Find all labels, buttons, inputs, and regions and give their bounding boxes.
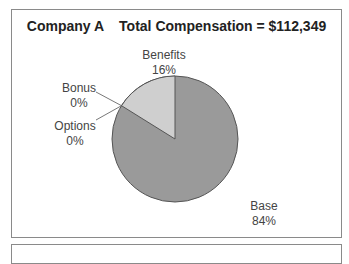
label-base: Base 84% [242,199,286,229]
label-benefits-name: Benefits [134,48,194,63]
label-bonus-pct: 0% [54,96,104,111]
label-bonus: Bonus 0% [54,81,104,111]
label-benefits: Benefits 16% [134,48,194,78]
label-benefits-pct: 16% [134,63,194,78]
label-options: Options 0% [48,119,102,149]
label-bonus-name: Bonus [54,81,104,96]
next-chart-panel [11,244,342,264]
label-base-pct: 84% [242,214,286,229]
label-base-name: Base [242,199,286,214]
label-options-name: Options [48,119,102,134]
label-options-pct: 0% [48,134,102,149]
